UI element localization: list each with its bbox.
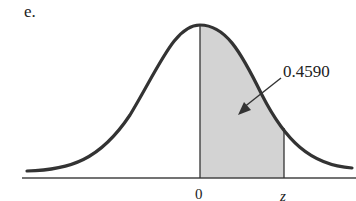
bell-curve [27, 25, 352, 171]
normal-curve-diagram: 0.4590 0 z [0, 0, 356, 201]
shaded-area [200, 25, 284, 178]
tick-label-zero: 0 [195, 186, 203, 201]
area-label: 0.4590 [283, 62, 330, 81]
tick-label-z: z [279, 188, 286, 201]
